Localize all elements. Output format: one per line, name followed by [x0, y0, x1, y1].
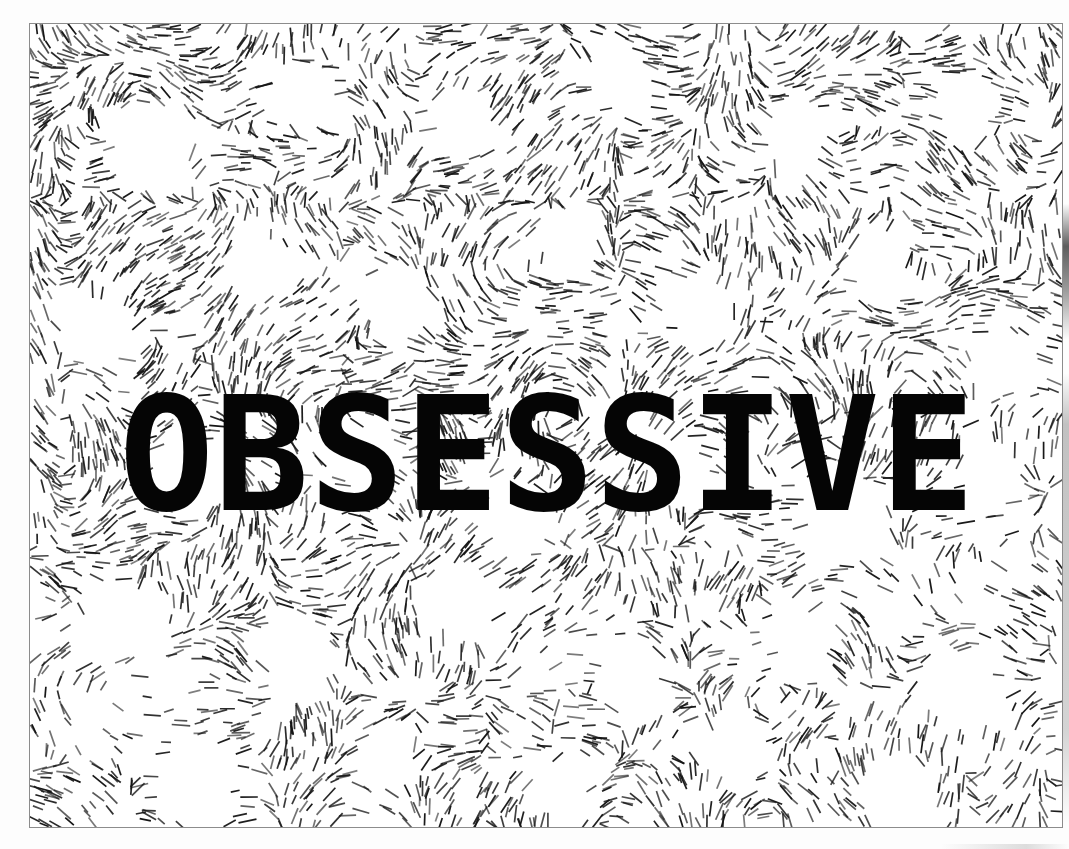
- artwork-root: OBSESSIVE: [0, 0, 1069, 849]
- scanner-edge-strip-bottom: [0, 844, 1069, 849]
- plate-frame: OBSESSIVE: [29, 23, 1063, 828]
- hatch-texture-canvas: [30, 24, 1062, 827]
- scanner-edge-strip-right: [1063, 0, 1069, 849]
